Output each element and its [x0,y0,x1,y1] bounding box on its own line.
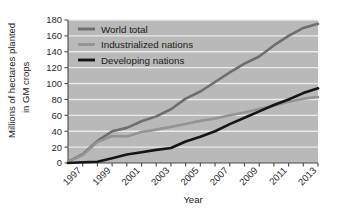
y-tick-label-0: 0 [57,157,62,168]
y-tick-label-140: 140 [46,46,62,57]
x-tick-label-2007: 2007 [207,165,230,188]
gm-crops-line-chart: 020406080100120140160180 199719992001200… [0,0,337,214]
chart-figure: 020406080100120140160180 199719992001200… [0,0,337,214]
x-tick-label-2001: 2001 [119,165,142,188]
legend-label-industrialized-nations: Industrialized nations [101,39,193,50]
y-axis-title: Millions of hectares planted in GM crops [6,23,31,138]
y-tick-label-20: 20 [51,142,62,153]
y-tick-label-120: 120 [46,62,62,73]
x-tick-label-2005: 2005 [178,165,201,188]
y-tick-label-100: 100 [46,78,62,89]
y-tick-label-80: 80 [51,94,62,105]
legend-label-world-total: World total [101,24,148,35]
y-tick-label-180: 180 [46,14,62,25]
x-tick-label-1999: 1999 [90,165,113,188]
x-tick-label-2011: 2011 [267,165,289,187]
y-tick-label-60: 60 [51,110,62,121]
y-tick-label-40: 40 [51,126,62,137]
y-axis-title-line2: in GM crops [20,62,31,113]
x-tick-label-2013: 2013 [296,165,319,188]
x-tick-label-1997: 1997 [60,165,83,188]
y-axis: 020406080100120140160180 [46,14,68,168]
x-axis-title: Year [183,194,202,205]
y-axis-title-line1: Millions of hectares planted [6,23,17,138]
x-tick-label-2009: 2009 [237,165,260,188]
x-axis: 199719992001200320052007200920112013 [60,163,318,187]
x-tick-label-2003: 2003 [149,165,172,188]
legend-label-developing-nations: Developing nations [101,55,184,66]
y-tick-label-160: 160 [46,30,62,41]
